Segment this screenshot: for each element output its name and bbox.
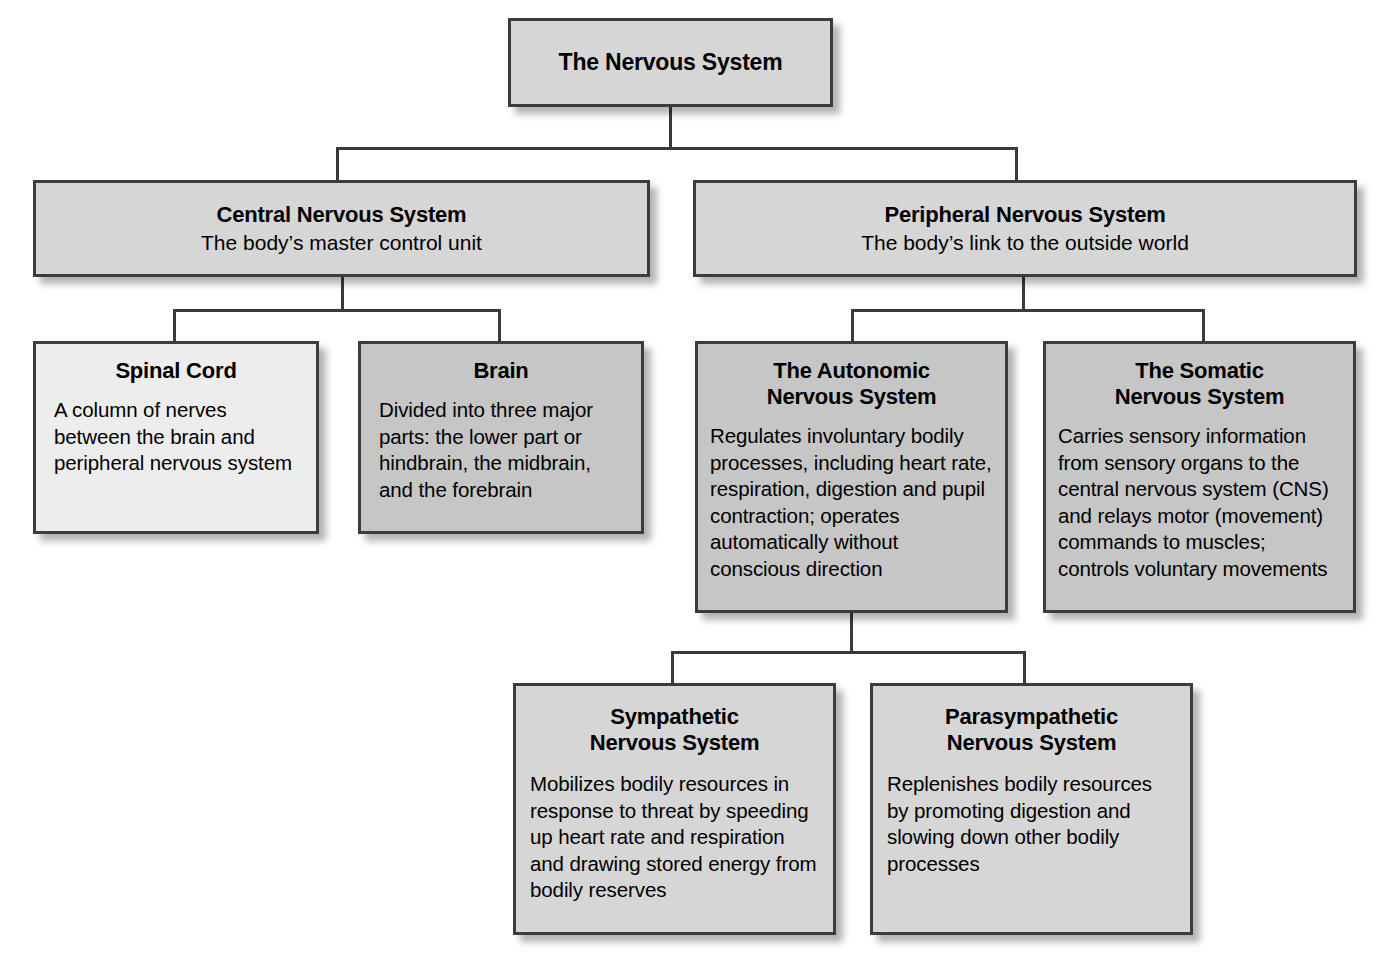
node-somatic-nervous-system[interactable]: The SomaticNervous System Carries sensor… — [1043, 341, 1356, 613]
node-title: The AutonomicNervous System — [767, 358, 937, 410]
node-subtitle: The body’s master control unit — [201, 231, 482, 255]
connector-autonomic-bar — [671, 651, 1026, 654]
node-spinal-cord[interactable]: Spinal Cord A column of nerves between t… — [33, 341, 319, 534]
node-title: Spinal Cord — [115, 358, 236, 384]
node-title: Peripheral Nervous System — [884, 202, 1165, 228]
node-central-nervous-system[interactable]: Central Nervous System The body’s master… — [33, 180, 650, 277]
connector-to-spinal-cord — [173, 309, 176, 343]
connector-to-pns — [1015, 147, 1018, 183]
node-sympathetic-nervous-system[interactable]: SympatheticNervous System Mobilizes bodi… — [513, 683, 836, 935]
connector-pns-stem — [1022, 277, 1025, 311]
node-peripheral-nervous-system[interactable]: Peripheral Nervous System The body’s lin… — [693, 180, 1357, 277]
connector-to-cns — [336, 147, 339, 183]
node-title: SympatheticNervous System — [590, 704, 760, 756]
connector-cns-bar — [173, 309, 501, 312]
connector-to-brain — [498, 309, 501, 343]
node-subtitle: The body’s link to the outside world — [861, 231, 1189, 255]
connector-to-sympathetic — [671, 651, 674, 685]
node-body: A column of nerves between the brain and… — [54, 397, 298, 477]
connector-to-autonomic — [851, 309, 854, 343]
connector-level2-bar — [336, 147, 1018, 150]
connector-to-somatic — [1202, 309, 1205, 343]
node-title: Central Nervous System — [217, 202, 467, 228]
node-parasympathetic-nervous-system[interactable]: ParasympatheticNervous System Replenishe… — [870, 683, 1193, 935]
node-the-nervous-system[interactable]: The Nervous System — [508, 18, 833, 107]
node-title: The SomaticNervous System — [1115, 358, 1285, 410]
connector-pns-bar — [851, 309, 1205, 312]
node-body: Regulates involuntary bodily processes, … — [710, 423, 993, 583]
node-body: Carries sensory information from sensory… — [1058, 423, 1341, 583]
node-body: Divided into three major parts: the lowe… — [379, 397, 623, 504]
node-title: The Nervous System — [559, 49, 783, 76]
connector-to-parasympathetic — [1023, 651, 1026, 685]
nervous-system-diagram: The Nervous System Central Nervous Syste… — [0, 0, 1380, 969]
node-body: Replenishes bodily resources by promotin… — [887, 771, 1176, 878]
node-title: ParasympatheticNervous System — [945, 704, 1118, 756]
connector-autonomic-stem — [850, 613, 853, 653]
node-brain[interactable]: Brain Divided into three major parts: th… — [358, 341, 644, 534]
node-title: Brain — [473, 358, 528, 384]
node-autonomic-nervous-system[interactable]: The AutonomicNervous System Regulates in… — [695, 341, 1008, 613]
node-body: Mobilizes bodily resources in response t… — [530, 771, 819, 904]
connector-cns-stem — [341, 277, 344, 311]
connector-root-stem — [669, 107, 672, 149]
